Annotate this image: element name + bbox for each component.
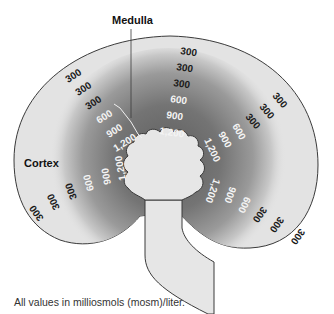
cortex-label: Cortex <box>24 157 60 169</box>
kidney-osmolarity-diagram: Medulla Cortex 300 300 300 600 900 1,200… <box>0 0 334 314</box>
medulla-label: Medulla <box>112 14 154 26</box>
units-caption: All values in milliosmols (mosm)/liter. <box>14 296 185 308</box>
